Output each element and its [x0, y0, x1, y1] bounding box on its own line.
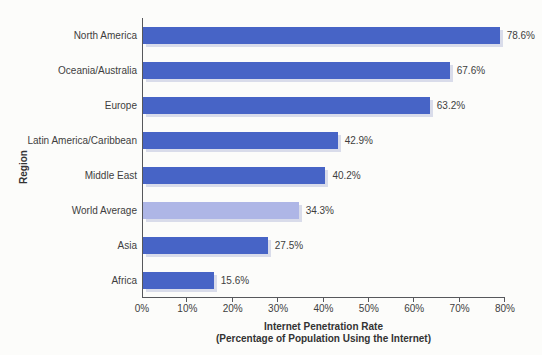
- category-label: Europe: [105, 97, 137, 114]
- category-label: Asia: [118, 237, 137, 254]
- category-label: World Average: [72, 202, 137, 219]
- y-axis-title: Region: [18, 147, 30, 187]
- x-axis-tick-label: 30%: [258, 303, 298, 314]
- x-axis-tick: [323, 298, 324, 302]
- x-axis-tick-label: 20%: [213, 303, 253, 314]
- bar-highlighted: [143, 202, 299, 219]
- x-axis-title-line2: (Percentage of Population Using the Inte…: [142, 333, 505, 345]
- x-axis-tick: [413, 298, 414, 302]
- category-label: North America: [74, 27, 137, 44]
- x-axis-tick: [232, 298, 233, 302]
- x-axis-tick: [504, 298, 505, 302]
- x-axis-tick-label: 70%: [440, 303, 480, 314]
- x-axis-tick: [459, 298, 460, 302]
- x-axis-title: Internet Penetration Rate (Percentage of…: [142, 321, 505, 345]
- category-label: Oceania/Australia: [58, 62, 137, 79]
- category-label: Latin America/Caribbean: [27, 132, 137, 149]
- bar: [143, 132, 338, 149]
- bar-value-label: 15.6%: [221, 272, 249, 289]
- bar-value-label: 67.6%: [457, 62, 485, 79]
- x-axis-title-line1: Internet Penetration Rate: [142, 321, 505, 333]
- plot-area: [142, 18, 505, 298]
- bar-value-label: 27.5%: [275, 237, 303, 254]
- bar-value-label: 34.3%: [306, 202, 334, 219]
- bar-value-label: 63.2%: [437, 97, 465, 114]
- x-axis-tick-label: 10%: [167, 303, 207, 314]
- category-label: Middle East: [85, 167, 137, 184]
- x-axis-tick-label: 50%: [349, 303, 389, 314]
- bar: [143, 167, 325, 184]
- bar: [143, 237, 268, 254]
- x-axis-tick-label: 40%: [304, 303, 344, 314]
- x-axis-tick: [277, 298, 278, 302]
- bar-value-label: 42.9%: [345, 132, 373, 149]
- internet-penetration-bar-chart: Region Internet Penetration Rate (Percen…: [0, 0, 542, 355]
- category-label: Africa: [111, 272, 137, 289]
- bar: [143, 272, 214, 289]
- bar-value-label: 78.6%: [507, 27, 535, 44]
- bar: [143, 97, 430, 114]
- x-axis-tick-label: 60%: [394, 303, 434, 314]
- x-axis-tick-label: 0%: [122, 303, 162, 314]
- x-axis-tick-label: 80%: [485, 303, 525, 314]
- bar-value-label: 40.2%: [332, 167, 360, 184]
- bar: [143, 62, 450, 79]
- x-axis-tick: [368, 298, 369, 302]
- x-axis-tick: [186, 298, 187, 302]
- bar: [143, 27, 500, 44]
